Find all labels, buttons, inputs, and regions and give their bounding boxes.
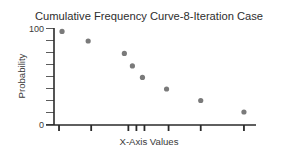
y-tick-label-min: 0: [39, 120, 44, 130]
y-axis-ticks: [46, 29, 54, 125]
data-points: [59, 29, 246, 115]
data-point-2: [122, 51, 127, 56]
data-point-6: [198, 98, 203, 103]
data-point-3: [130, 63, 135, 68]
data-point-1: [86, 38, 91, 43]
y-tick-label-max: 100: [29, 24, 44, 34]
data-point-7: [241, 109, 246, 114]
x-axis-ticks: [59, 125, 244, 131]
cumulative-frequency-chart: Cumulative Frequency Curve-8-Iteration C…: [0, 0, 282, 152]
data-point-5: [164, 86, 169, 91]
data-point-4: [140, 75, 145, 80]
data-point-0: [59, 29, 64, 34]
x-axis-label: X-Axis Values: [119, 136, 178, 147]
chart-title: Cumulative Frequency Curve-8-Iteration C…: [35, 10, 263, 22]
y-axis-label: Probability: [16, 53, 27, 98]
